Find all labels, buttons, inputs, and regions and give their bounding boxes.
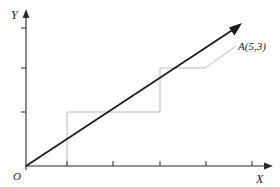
slope-staircase [67, 68, 205, 166]
x-axis-arrowhead-icon [264, 163, 273, 170]
y-axis-arrowhead-icon [23, 9, 30, 18]
label-leader-line [205, 46, 236, 68]
main-ray [26, 23, 242, 166]
coordinate-figure: Y X O A(5,3) [0, 0, 280, 187]
origin-label: O [13, 170, 21, 182]
y-axis-label: Y [11, 8, 19, 22]
x-axis [26, 161, 273, 169]
main-ray-line [26, 29, 234, 166]
point-a-label: A(5,3) [237, 40, 266, 53]
y-axis [21, 9, 29, 170]
x-axis-label: X [255, 172, 264, 186]
figure-canvas: Y X O A(5,3) [0, 0, 280, 187]
main-ray-arrowhead-icon [229, 23, 242, 36]
